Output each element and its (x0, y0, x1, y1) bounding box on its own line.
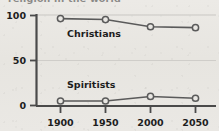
data-point-marker (57, 16, 63, 22)
data-point-marker (147, 93, 153, 99)
x-axis (36, 106, 216, 113)
data-point-marker (192, 25, 198, 31)
y-tick-label-0: 0 (19, 100, 26, 111)
series-spiritists (57, 93, 198, 104)
data-point-marker (102, 16, 108, 22)
x-tick-label-1950: 1950 (92, 117, 119, 128)
series-label-spiritists: Spiritists (67, 79, 116, 90)
x-tick-label-2000: 2000 (137, 117, 164, 128)
data-point-marker (57, 98, 63, 104)
y-tick-label-50: 50 (13, 55, 27, 66)
series-line (61, 96, 196, 101)
chart-figure: religion in the world 100 50 0 1900 195 (0, 0, 219, 131)
series-label-christians: Christians (67, 28, 121, 39)
y-axis (30, 14, 37, 106)
x-tick-label-2050: 2050 (182, 117, 209, 128)
data-point-marker (192, 95, 198, 101)
y-tick-label-100: 100 (6, 10, 26, 21)
gridlines (36, 15, 216, 61)
x-tick-label-1900: 1900 (47, 117, 74, 128)
line-chart-plot: 100 50 0 1900 1950 2000 2050 Christians … (0, 0, 219, 131)
data-point-marker (102, 98, 108, 104)
data-point-marker (147, 24, 153, 30)
series-line (61, 19, 196, 28)
